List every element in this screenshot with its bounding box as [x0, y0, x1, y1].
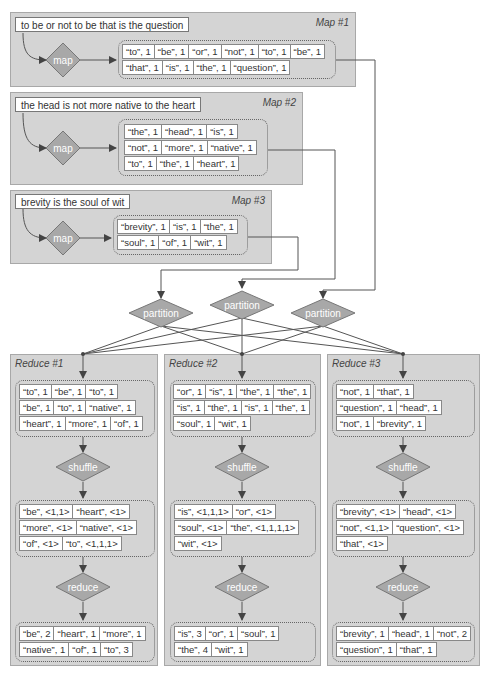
kv-row: “be”, 2“heart”, 1“more”, 1	[19, 626, 145, 641]
kv-pair: “to”, 1	[124, 156, 157, 171]
kv-row: “the”, 1“head”, 1“is”, 1	[124, 124, 237, 139]
shuffle-label-2: shuffle	[227, 462, 256, 473]
kv-pair: “wit”, 1	[214, 416, 251, 431]
partition-label-1: partition	[143, 308, 179, 319]
kv-pair: “more”, 1	[65, 416, 112, 431]
partition-label-2: partition	[224, 300, 260, 311]
kv-pair: “soul”, <1>	[174, 520, 227, 535]
reduce-label-1: reduce	[68, 582, 99, 593]
kv-pair: “question”, 1	[336, 400, 397, 415]
kv-row: “soul”, 1“of”, 1“wit”, 1	[117, 235, 226, 250]
kv-row: “not”, 1“that”, 1	[336, 384, 413, 399]
kv-pair: “that”, 1	[396, 642, 437, 657]
map-title-3: Map #3	[232, 195, 265, 206]
kv-pair: “head”, 1	[161, 124, 207, 139]
kv-pair: “question”, 1	[230, 60, 291, 75]
kv-pair: “is”, 3	[174, 626, 206, 641]
kv-pair: “of”, 1	[110, 416, 143, 431]
map-op-label-3: map	[53, 233, 72, 244]
kv-pair: “native”, <1>	[76, 520, 137, 535]
kv-pair: “brevity”, 1	[373, 416, 426, 431]
kv-pair: “be”, 1	[154, 44, 189, 59]
kv-pair: “the”, 1	[204, 400, 242, 415]
kv-pair: “more”, <1>	[19, 520, 77, 535]
map-title-2: Map #2	[263, 97, 296, 108]
kv-pair: “the”, 1	[272, 400, 310, 415]
kv-row: “that”, 1“is”, 1“the”, 1“question”, 1	[122, 60, 289, 75]
shuffle-label-1: shuffle	[68, 462, 97, 473]
kv-pair: “is”, 1	[206, 124, 238, 139]
kv-row: “more”, <1>“native”, <1>	[19, 520, 136, 535]
kv-row: “of”, <1>“to”, <1,1,1>	[19, 536, 121, 551]
kv-row: “brevity”, <1>“head”, <1>	[336, 504, 455, 519]
kv-row: “to”, 1“be”, 1“to”, 1	[19, 384, 117, 399]
kv-row: “not”, 1“more”, 1“native”, 1	[124, 140, 256, 155]
partition-label-3: partition	[305, 308, 341, 319]
map-input-1: to be or not to be that is the question	[15, 17, 189, 32]
kv-pair: “is”, 1	[169, 219, 201, 234]
kv-pair: “to”, 1	[85, 384, 118, 399]
kv-pair: “the”, 1	[273, 384, 311, 399]
kv-pair: “head”, 1	[388, 626, 434, 641]
kv-pair: “the”, 1	[236, 384, 274, 399]
kv-pair: “head”, <1>	[399, 504, 456, 519]
kv-pair: “be”, 2	[19, 626, 54, 641]
kv-row: “is”, 1“the”, 1“is”, 1“the”, 1	[173, 400, 309, 415]
kv-row: “not”, 1“brevity”, 1	[336, 416, 425, 431]
kv-pair: “the”, 1	[193, 60, 231, 75]
kv-row: “or”, 1“is”, 1“the”, 1“the”, 1	[173, 384, 310, 399]
kv-row: “soul”, <1>“the”, <1,1,1,1>	[174, 520, 298, 535]
kv-pair: “to”, 1	[53, 400, 86, 415]
kv-pair: “soul”, 1	[117, 235, 159, 250]
kv-pair: “to”, 1	[19, 384, 52, 399]
kv-row: “soul”, 1“wit”, 1	[173, 416, 250, 431]
kv-pair: “or”, 1	[173, 384, 206, 399]
kv-row: “to”, 1“the”, 1“heart”, 1	[124, 156, 238, 171]
kv-pair: “be”, 1	[19, 400, 54, 415]
reduce-title-3: Reduce #3	[332, 358, 380, 369]
kv-row: “question”, 1“head”, 1	[336, 400, 441, 415]
kv-pair: “the”, 1	[156, 156, 194, 171]
kv-pair: “wit”, <1>	[174, 536, 222, 551]
kv-pair: “soul”, 1	[237, 626, 279, 641]
kv-pair: “be”, <1,1>	[19, 504, 73, 519]
kv-pair: “be”, 1	[290, 44, 325, 59]
kv-pair: “the”, <1,1,1,1>	[226, 520, 299, 535]
kv-pair: “is”, <1,1,1>	[174, 504, 233, 519]
kv-pair: “to”, 3	[100, 642, 133, 657]
kv-pair: “of”, 1	[68, 642, 101, 657]
map-input-2: the head is not more native to the heart	[15, 97, 201, 112]
shuffle-label-3: shuffle	[388, 462, 417, 473]
kv-pair: “is”, 1	[162, 60, 194, 75]
kv-pair: “that”, 1	[373, 384, 414, 399]
kv-pair: “native”, 1	[19, 642, 69, 657]
map-op-label-1: map	[53, 55, 72, 66]
kv-pair: “to”, 1	[258, 44, 291, 59]
kv-pair: “more”, 1	[161, 140, 208, 155]
kv-pair: “not”, 1	[221, 44, 259, 59]
kv-pair: “is”, 1	[205, 384, 237, 399]
kv-row: “question”, 1“that”, 1	[336, 642, 436, 657]
reduce-label-2: reduce	[227, 582, 258, 593]
kv-pair: “be”, 1	[51, 384, 86, 399]
map-op-label-2: map	[53, 143, 72, 154]
kv-pair: “not”, 1	[124, 140, 162, 155]
kv-pair: “not”, 1	[336, 416, 374, 431]
kv-pair: “brevity”, <1>	[336, 504, 400, 519]
kv-pair: “heart”, 1	[19, 416, 66, 431]
kv-pair: “question”, <1>	[392, 520, 464, 535]
kv-row: “be”, 1“to”, 1“native”, 1	[19, 400, 135, 415]
kv-pair: “that”, <1>	[336, 536, 388, 551]
reduce-label-3: reduce	[388, 582, 419, 593]
kv-pair: “of”, 1	[158, 235, 191, 250]
kv-row: “the”, 4“wit”, 1	[174, 642, 247, 657]
kv-pair: “wit”, 1	[211, 642, 248, 657]
kv-row: “be”, <1,1>“heart”, <1>	[19, 504, 129, 519]
kv-row: “brevity”, 1“head”, 1“not”, 2	[336, 626, 470, 641]
kv-row: “heart”, 1“more”, 1“of”, 1	[19, 416, 142, 431]
kv-pair: “of”, <1>	[19, 536, 63, 551]
kv-pair: “to”, 1	[122, 44, 155, 59]
kv-pair: “or”, 1	[188, 44, 221, 59]
reduce-title-2: Reduce #2	[169, 358, 217, 369]
kv-row: “native”, 1“of”, 1“to”, 3	[19, 642, 132, 657]
